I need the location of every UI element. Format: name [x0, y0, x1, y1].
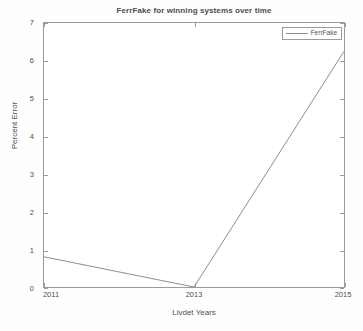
plot-area: FerrFake: [43, 22, 345, 288]
plot-svg: [44, 23, 344, 287]
x-axis-tick-mark: [345, 283, 346, 287]
y-axis-tick-mark: [340, 213, 344, 214]
x-axis-tick-label: 2013: [186, 290, 203, 299]
chart-legend[interactable]: FerrFake: [282, 27, 342, 40]
y-axis-tick-label: 5: [30, 94, 34, 103]
y-axis-tick-mark: [44, 61, 48, 62]
y-axis-tick-mark: [340, 288, 344, 289]
legend-line-sample-icon: [286, 33, 308, 34]
x-axis-tick-mark: [44, 23, 45, 27]
data-series-group: [44, 51, 344, 287]
x-axis-tick-label: 2015: [335, 290, 352, 299]
y-axis-tick-mark: [44, 251, 48, 252]
x-axis-tick-mark: [195, 283, 196, 287]
y-axis-tick-mark: [44, 213, 48, 214]
x-axis-tick-mark: [44, 283, 45, 287]
y-axis-tick-label: 6: [30, 56, 34, 65]
x-axis-tick-mark: [195, 23, 196, 27]
y-axis-tick-mark: [44, 175, 48, 176]
x-axis-tick-labels: 201120132015: [43, 290, 345, 302]
legend-label: FerrFake: [311, 30, 337, 37]
y-axis-tick-label: 3: [30, 170, 34, 179]
y-axis-tick-label: 7: [30, 18, 34, 27]
data-line-ferrfake: [44, 51, 344, 287]
chart-title: FerrFake for winning systems over time: [43, 6, 345, 15]
y-axis-tick-mark: [340, 251, 344, 252]
y-axis-tick-mark: [340, 61, 344, 62]
y-axis-tick-labels: 01234567: [0, 22, 39, 288]
y-axis-tick-mark: [340, 23, 344, 24]
y-axis-tick-label: 2: [30, 208, 34, 217]
x-axis-label: Livdet Years: [43, 308, 345, 317]
y-axis-tick-label: 1: [30, 246, 34, 255]
x-axis-tick-mark: [345, 23, 346, 27]
y-axis-tick-mark: [44, 137, 48, 138]
chart-figure: FerrFake for winning systems over time P…: [0, 0, 363, 331]
x-axis-tick-label: 2011: [43, 290, 59, 299]
y-axis-tick-mark: [340, 137, 344, 138]
y-axis-tick-mark: [340, 175, 344, 176]
y-axis-tick-mark: [340, 99, 344, 100]
y-axis-tick-mark: [44, 288, 48, 289]
y-axis-tick-label: 4: [30, 132, 34, 141]
y-axis-tick-mark: [44, 99, 48, 100]
y-axis-tick-label: 0: [30, 284, 34, 293]
